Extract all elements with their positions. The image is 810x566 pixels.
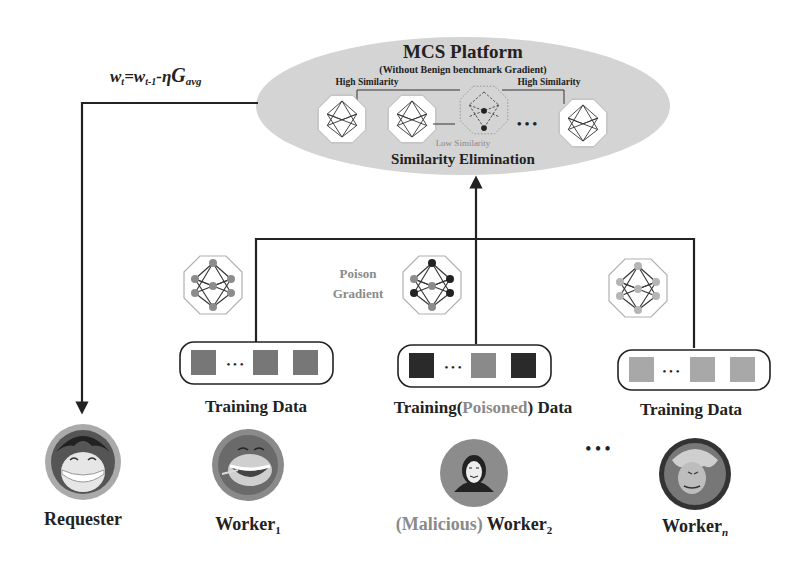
- platform-title: MCS Platform: [403, 41, 523, 62]
- mcs-diagram: MCS Platform (Without Benign benchmark G…: [0, 0, 810, 566]
- w-symbol: w: [110, 67, 122, 86]
- data-ellipsis: • • •: [226, 358, 243, 370]
- minus-eta: -η: [156, 67, 171, 86]
- training-data-box-poisoned: • • • Training(Poisoned) Data: [394, 345, 573, 417]
- data-ellipsis: • • •: [444, 361, 461, 373]
- worker-2-label: (Malicious) Worker2: [396, 514, 553, 536]
- high-similarity-right-label: High Similarity: [517, 77, 580, 87]
- t-minus-1-subscript: t-1: [145, 76, 156, 87]
- worker-n-label: Workern: [662, 516, 728, 538]
- equals-sign: =: [124, 67, 134, 86]
- training-data-label-poisoned: Training(Poisoned) Data: [394, 398, 573, 417]
- worker-1: Worker1: [212, 429, 284, 536]
- avg-subscript: avg: [186, 75, 202, 87]
- requester-label: Requester: [44, 509, 122, 529]
- benign-model-icon-1: [318, 95, 366, 143]
- more-workers-ellipsis: • • •: [586, 440, 611, 457]
- g-symbol: G: [171, 64, 186, 86]
- hacker-avatar: [440, 439, 508, 507]
- training-data-label-n: Training Data: [640, 400, 743, 419]
- training-data-label-1: Training Data: [205, 397, 308, 416]
- worker-2-malicious: (Malicious) Worker2: [396, 439, 553, 536]
- benign-model-icon-n: [559, 99, 607, 147]
- poisoned-model-icon: [403, 256, 461, 314]
- data-ellipsis: • • •: [662, 365, 679, 377]
- update-rule: wt=wt-1-ηGavg: [110, 64, 202, 87]
- benign-model-icon-2: [388, 95, 436, 143]
- requester-avatar: [45, 424, 121, 500]
- poison-label-line1: Poison: [340, 266, 378, 281]
- platform-ellipsis: • • •: [517, 116, 538, 131]
- training-data-box-1: • • • Training Data: [180, 342, 333, 416]
- low-similarity-label: Low Similarity: [436, 138, 491, 148]
- local-model-icon-n: [609, 259, 667, 317]
- similarity-elimination-label: Similarity Elimination: [391, 151, 535, 167]
- training-data-box-n: • • • Training Data: [618, 350, 770, 419]
- svg-text:wt=wt-1-ηGavg: wt=wt-1-ηGavg: [110, 64, 202, 87]
- platform-subtitle: (Without Benign benchmark Gradient): [379, 64, 546, 76]
- requester: Requester: [44, 424, 122, 529]
- local-model-icon-1: [184, 256, 242, 314]
- mcs-platform: MCS Platform (Without Benign benchmark G…: [256, 37, 670, 175]
- w-prev-symbol: w: [134, 67, 146, 86]
- worker-n-avatar: [659, 438, 731, 510]
- high-similarity-left-label: High Similarity: [335, 77, 398, 87]
- worker-1-avatar: [212, 429, 284, 501]
- worker-n: Workern: [659, 438, 731, 538]
- worker-1-label: Worker1: [215, 514, 281, 536]
- poison-label-line2: Gradient: [333, 286, 384, 301]
